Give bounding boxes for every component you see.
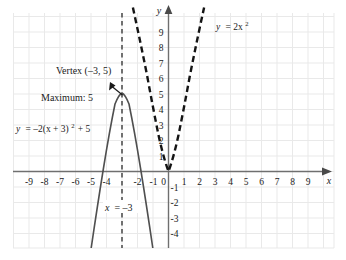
y-tick-3: 3 [159, 121, 164, 131]
y-tick-5: 5 [159, 90, 164, 100]
x-tick-2: 2 [197, 177, 202, 187]
x-axis-label: x [326, 175, 332, 186]
solid-equation-lhs: y [15, 124, 21, 134]
coordinate-plane: x y -9 -8 -7 -6 -5 -4 -3 -2 -1 0 1 2 3 4… [0, 0, 346, 260]
origin-label: 0 [161, 177, 166, 187]
y-tick-9: 9 [159, 28, 164, 38]
y-tick-6: 6 [159, 74, 164, 84]
y-tick--1: -1 [171, 183, 179, 193]
y-tick-7: 7 [159, 59, 164, 69]
x-tick-4: 4 [228, 177, 233, 187]
axis-of-symmetry-label-value: = –3 [114, 202, 132, 213]
x-tick--4: -4 [103, 177, 111, 187]
solid-equation-exponent: 2 [71, 122, 74, 129]
x-tick--2: -2 [134, 177, 142, 187]
x-tick-labels-negative: -9 -8 -7 -6 -5 -4 -3 -2 -1 [25, 177, 158, 187]
x-tick--5: -5 [87, 177, 95, 187]
dashed-curve-equation: y = 2x 2 [215, 20, 249, 32]
dashed-equation-lhs: y [215, 22, 221, 32]
x-tick-3: 3 [213, 177, 218, 187]
y-tick-labels-positive: 1 2 3 4 5 6 7 8 9 [159, 28, 164, 162]
x-tick-8: 8 [290, 177, 295, 187]
y-tick--2: -2 [171, 198, 179, 208]
maximum-label: Maximum: 5 [41, 92, 93, 103]
svg-text:x = –3: x = –3 [104, 202, 133, 213]
x-tick--6: -6 [72, 177, 80, 187]
x-tick-9: 9 [306, 177, 311, 187]
solid-equation-rhs-pre: = –2(x + 3) [26, 124, 69, 135]
x-tick-6: 6 [259, 177, 264, 187]
y-tick--4: -4 [171, 229, 179, 239]
x-tick--7: -7 [56, 177, 64, 187]
x-tick-1: 1 [182, 177, 187, 187]
axis-of-symmetry-label: x = –3 [103, 200, 141, 213]
x-tick-7: 7 [275, 177, 280, 187]
x-tick--8: -8 [41, 177, 49, 187]
dashed-equation-exponent: 2 [245, 20, 248, 27]
x-tick-5: 5 [244, 177, 249, 187]
solid-equation-rhs-post: + 5 [78, 124, 91, 134]
dashed-equation-rhs-pre: = 2x [226, 22, 243, 32]
y-tick-4: 4 [159, 105, 164, 115]
x-tick--9: -9 [25, 177, 33, 187]
y-tick-8: 8 [159, 43, 164, 53]
vertex-label: Vertex (–3, 5) [56, 65, 111, 77]
graph-figure: x y -9 -8 -7 -6 -5 -4 -3 -2 -1 0 1 2 3 4… [0, 0, 346, 260]
y-axis-label: y [156, 5, 162, 16]
y-tick--3: -3 [171, 214, 179, 224]
x-tick-labels-positive: 1 2 3 4 5 6 7 8 9 [182, 177, 311, 187]
axis-of-symmetry-label-x: x [104, 202, 110, 213]
x-tick--1: -1 [150, 177, 158, 187]
